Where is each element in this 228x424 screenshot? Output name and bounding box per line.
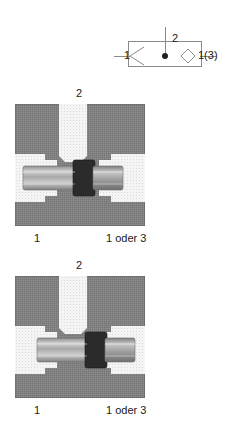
symbol-label-port-13: 1(3) [198,50,218,61]
cross-section-ball-left [15,104,145,226]
diagram2-label-port-1: 1 [34,405,40,416]
diagram2-label-port-13: 1 oder 3 [106,405,146,416]
symbol-label-port-1: 1 [124,50,130,61]
diagram2-label-port-2: 2 [76,260,82,271]
cross-section-2-graphic [15,276,145,398]
symbol-label-port-2: 2 [172,33,178,44]
diagram1-label-port-2: 2 [76,88,82,99]
symbol-junction-dot [162,53,168,59]
diagram1-label-port-13: 1 oder 3 [106,233,146,244]
diagram1-label-port-1: 1 [34,233,40,244]
cross-section-1-graphic [15,104,145,226]
cross-section-ball-right [15,276,145,398]
